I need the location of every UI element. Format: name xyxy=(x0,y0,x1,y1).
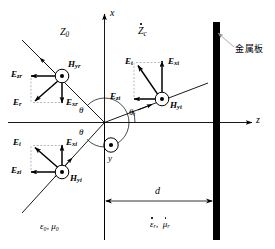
axis-x-label: x xyxy=(110,8,114,18)
E-t-arrow xyxy=(138,66,158,95)
H-yi-sub: yi xyxy=(77,176,82,183)
E-xt-label: Ext xyxy=(168,57,179,67)
reflected-vector-group xyxy=(31,69,69,103)
angle-theta-incident-label: θ xyxy=(79,128,83,137)
E-i-label: Ei xyxy=(13,138,21,148)
right-region-impedance-symbol: Z xyxy=(138,26,144,36)
theta-t-sub: t xyxy=(133,110,135,117)
metal-plate xyxy=(213,22,220,240)
axis-y-label: y xyxy=(108,154,112,163)
left-region-impedance: Z0 xyxy=(60,27,69,39)
E-r-sub: r xyxy=(19,100,22,107)
E-zt-sub: zt xyxy=(116,94,120,101)
E-t-sub: t xyxy=(131,59,133,66)
E-i-sub: i xyxy=(19,140,21,147)
E-xr-label: Exr xyxy=(66,98,78,108)
E-xr-sub: xr xyxy=(72,100,78,107)
E-zr-sub: zr xyxy=(17,72,22,79)
metal-plate-leader xyxy=(218,33,234,47)
E-xi-sub: xi xyxy=(72,140,77,147)
H-yt-label: Hyt xyxy=(170,101,182,111)
H-yt-sub: yt xyxy=(177,103,182,110)
thickness-label: d xyxy=(155,186,160,196)
H-yt-symbol-text: H xyxy=(170,100,177,110)
incident-vector-group xyxy=(31,145,69,179)
physics-diagram: x z y Z0 Zc 金属板 ε₀, μ₀ εr, μr d θ θ θt H… xyxy=(0,0,275,249)
H-yr-sub: yr xyxy=(75,62,80,69)
H-yr-symbol-text: H xyxy=(68,59,75,69)
left-region-impedance-sub: 0 xyxy=(66,31,70,39)
left-medium-constitutive: ε₀, μ₀ xyxy=(40,222,59,231)
E-xi-label: Exi xyxy=(66,138,77,148)
transmitted-vector-group xyxy=(134,61,169,106)
H-yi-label: Hyi xyxy=(70,174,82,184)
H-yi-symbol-text: H xyxy=(70,173,77,183)
E-zr-label: Ezr xyxy=(11,70,22,80)
E-xt-sub: xt xyxy=(174,59,179,66)
right-region-impedance: Zc xyxy=(138,26,147,38)
metal-plate-label: 金属板 xyxy=(235,45,264,54)
right-medium-constitutive: εr, μr xyxy=(150,220,170,230)
angle-arc-reflected xyxy=(87,98,104,106)
mu-r-sub: r xyxy=(167,222,170,229)
E-i-arrow xyxy=(35,148,58,168)
E-zi-sub: zi xyxy=(17,168,21,175)
angle-theta-reflected-label: θ xyxy=(79,106,83,115)
E-t-label: Et xyxy=(125,57,133,67)
E-r-label: Er xyxy=(13,98,22,108)
E-r-arrow xyxy=(35,81,58,101)
angle-arc-incident xyxy=(87,140,104,148)
mu-r-symbol: μ xyxy=(163,220,168,229)
E-zi-label: Ezi xyxy=(11,166,21,176)
E-zt-label: Ezt xyxy=(110,92,120,102)
axis-z-label: z xyxy=(256,115,260,125)
eps-r-symbol: ε xyxy=(150,220,154,229)
y-axis-out-of-page-symbol xyxy=(104,138,118,152)
right-region-impedance-sub: c xyxy=(144,30,147,38)
H-yr-label: Hyr xyxy=(68,60,80,70)
angle-theta-transmitted-label: θt xyxy=(129,108,135,118)
